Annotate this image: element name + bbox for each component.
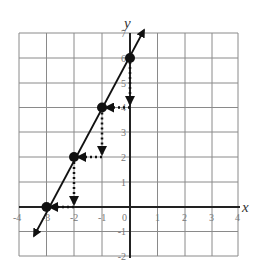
point (42, 202, 52, 212)
svg-text:3: 3 (209, 212, 214, 223)
x-tick-labels: -4 -3 -2 -1 0 1 2 3 4 (13, 212, 240, 223)
svg-text:2: 2 (182, 212, 187, 223)
svg-text:7: 7 (121, 28, 126, 39)
y-tick-labels: 7 6 5 4 3 2 1 -1 -2 (118, 28, 126, 262)
point (97, 103, 107, 113)
svg-text:5: 5 (121, 78, 126, 89)
svg-text:-1: -1 (118, 226, 126, 237)
svg-text:2: 2 (121, 152, 126, 163)
x-axis-label: x (241, 199, 249, 215)
coordinate-graph: y x -4 -3 -2 -1 0 1 2 3 4 7 6 5 4 3 2 1 … (0, 0, 260, 271)
svg-text:-2: -2 (118, 251, 126, 262)
point (125, 53, 135, 63)
svg-text:-1: -1 (98, 212, 106, 223)
svg-text:1: 1 (121, 177, 126, 188)
grid (19, 33, 238, 256)
svg-text:-4: -4 (13, 212, 21, 223)
svg-text:0: 0 (122, 212, 127, 223)
point (69, 152, 79, 162)
svg-text:3: 3 (121, 127, 126, 138)
svg-text:-2: -2 (70, 212, 78, 223)
svg-text:4: 4 (235, 212, 240, 223)
svg-text:1: 1 (155, 212, 160, 223)
